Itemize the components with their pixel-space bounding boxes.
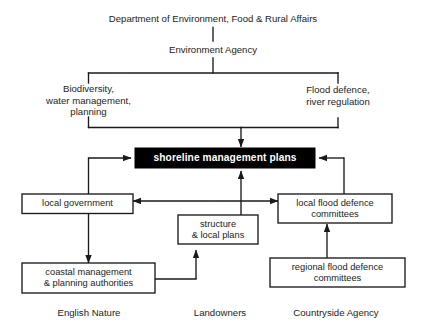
shoreline-box[interactable] xyxy=(135,148,315,168)
regional-flood-committees-box[interactable] xyxy=(270,258,405,287)
structure-local-plans-box[interactable] xyxy=(178,215,258,244)
local-flood-committees-box[interactable] xyxy=(278,194,392,223)
coastal-management-box[interactable] xyxy=(22,263,155,293)
local-government-box[interactable] xyxy=(22,194,133,214)
